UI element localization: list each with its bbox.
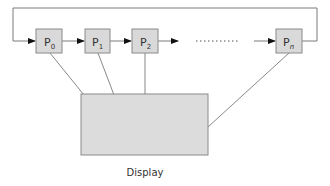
display-box [81,94,208,155]
process-box-p1: P1 [85,29,110,53]
connector-pn-display [208,53,289,127]
connector-p1-display [98,53,114,95]
process-box-p0: P0 [36,29,62,53]
connector-p0-display [50,53,84,95]
process-box-p2: P2 [132,29,158,53]
process-box-pn: Pn [276,29,302,53]
process-ring-diagram: P0 P1 P2 Pn Display [0,0,330,186]
display-label: Display [127,167,164,178]
